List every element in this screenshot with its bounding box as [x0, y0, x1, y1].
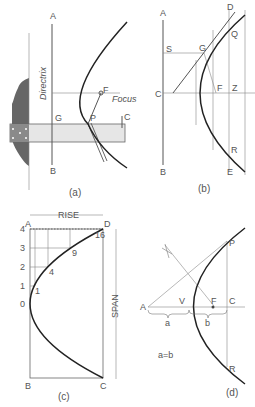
label-b: b [205, 318, 210, 328]
parabola-construction-figure: A B G P F C Focus Directrix (a) A B C S … [0, 0, 255, 407]
label-directrix: Directrix [38, 67, 48, 100]
label-B: B [50, 166, 56, 176]
equation-a-equals-b: a=b [158, 350, 173, 360]
caption-a: (a) [69, 187, 81, 198]
panel-d: A V F C P R a b a=b (d) [140, 228, 245, 398]
panel-a: A B G P F C Focus Directrix (a) [10, 11, 137, 198]
label-Z: Z [232, 83, 238, 93]
tick-1: 1 [20, 281, 25, 291]
label-a: a [165, 318, 170, 328]
label-R: R [231, 145, 238, 155]
label-span: SPAN [110, 294, 120, 318]
label-E: E [227, 167, 233, 177]
point-1: 1 [35, 286, 40, 296]
parabola-curve-d [194, 228, 246, 384]
point-4: 4 [49, 267, 54, 277]
tick-0: 0 [20, 299, 25, 309]
label-B-b: B [160, 167, 166, 177]
label-C-b: C [155, 89, 162, 99]
label-R-d: R [229, 364, 236, 374]
label-F-d: F [211, 296, 217, 306]
label-F: F [103, 85, 109, 95]
bisector-line [165, 245, 214, 306]
label-C: C [124, 112, 131, 122]
label-B-c: B [25, 381, 31, 391]
parabola-curve-c [30, 229, 103, 378]
label-focus: Focus [112, 94, 137, 104]
label-rise: RISE [58, 210, 79, 220]
point-16: 16 [95, 230, 105, 240]
label-A-c: A [25, 219, 31, 229]
arc-intersection-mark [162, 244, 172, 258]
label-V: V [179, 296, 185, 306]
tick-3: 3 [20, 243, 25, 253]
label-F-b: F [217, 83, 223, 93]
label-Q: Q [231, 29, 238, 39]
point-9: 9 [72, 248, 77, 258]
label-A-b: A [160, 8, 166, 18]
label-C-c: C [100, 381, 107, 391]
parabola-curve-b [200, 15, 245, 172]
label-A: A [50, 11, 56, 21]
tick-4: 4 [20, 224, 25, 234]
label-S: S [166, 44, 172, 54]
caption-d: (d) [226, 387, 238, 398]
label-P: P [90, 113, 96, 123]
panel-c: A D B C RISE SPAN 4 3 2 1 0 16 9 4 1 (c) [20, 210, 120, 402]
label-G: G [55, 113, 62, 123]
label-D: D [227, 2, 234, 12]
label-G-b: G [199, 43, 206, 53]
label-A-d: A [140, 302, 146, 312]
label-C-d: C [229, 296, 236, 306]
panel-b: A B C S G F Z D Q R E (b) [155, 2, 255, 194]
brace-a [148, 310, 189, 318]
line-GF [204, 53, 216, 93]
label-D-c: D [104, 219, 111, 229]
caption-b: (b) [198, 183, 210, 194]
caption-c: (c) [58, 391, 70, 402]
label-P-d: P [229, 238, 235, 248]
tick-2: 2 [20, 262, 25, 272]
